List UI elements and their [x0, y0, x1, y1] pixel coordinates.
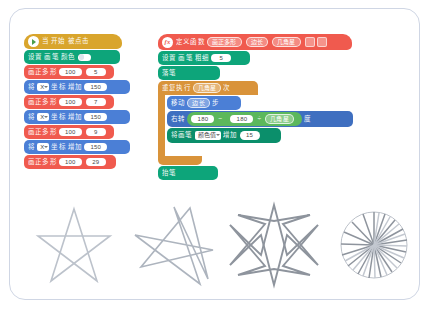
define-label: 定义函数: [176, 39, 205, 46]
define-function-header[interactable]: fx 定义函数 画正多形 边长 几角星: [158, 34, 352, 50]
call-label-3: 画正多形: [28, 129, 57, 136]
call-arg-3-2[interactable]: 9: [86, 128, 106, 137]
star-7-icon: [124, 197, 224, 293]
change-x-block-2[interactable]: 将 X 坐标 增加 150: [24, 110, 130, 124]
divide-operator-symbol: ÷: [255, 116, 263, 123]
axis-dropdown-2[interactable]: X: [37, 113, 49, 122]
subtraction-operator-block[interactable]: 180 − 180 ÷ 几角星: [187, 112, 301, 127]
call-label-2: 画正多形: [28, 99, 57, 106]
star-9-icon: [224, 197, 324, 293]
change-x-prefix-1: 将: [28, 84, 35, 91]
call-arg-1-2[interactable]: 5: [86, 68, 106, 77]
move-label-before: 移动: [171, 100, 185, 107]
drawn-star-results: [24, 197, 424, 293]
repeat-label-before: 重复执行: [162, 85, 191, 92]
change-x-block-3[interactable]: 将 X 坐标 增加 150: [24, 140, 130, 154]
star-29-icon: [324, 197, 424, 293]
turn-operand-a[interactable]: 180: [191, 115, 214, 124]
function-name-chip[interactable]: 画正多形: [207, 37, 242, 48]
repeat-block-header[interactable]: 重复执行 几角星 次: [158, 81, 258, 95]
call-draw-polygon-block-4[interactable]: 画正多形 100 29: [24, 155, 116, 169]
pen-down-block[interactable]: 落笔: [158, 66, 220, 80]
set-pen-color-block[interactable]: 设置 画笔 颜色: [24, 50, 120, 64]
pen-color-toggle[interactable]: [78, 54, 91, 61]
change-pen-color-block[interactable]: 将画笔 颜色值 增加 15: [167, 128, 281, 143]
pen-down-label: 落笔: [162, 70, 176, 77]
change-x-block-1[interactable]: 将 X 坐标 增加 150: [24, 80, 130, 94]
change-x-prefix-2: 将: [28, 114, 35, 121]
repeat-block-footer: [158, 156, 202, 165]
repeat-block-arm: [158, 95, 165, 156]
change-pen-value[interactable]: 15: [240, 131, 260, 140]
star-result-5-points: [24, 197, 124, 293]
axis-dropdown-1[interactable]: X: [37, 83, 49, 92]
pen-up-label: 抬笔: [162, 170, 176, 177]
workspace-panel: 当 开始 被点击 设置 画笔 颜色 画正多形 100 5 将 X 坐标 增加 1…: [9, 8, 420, 300]
pen-size-value[interactable]: 5: [211, 54, 231, 63]
call-draw-polygon-block-3[interactable]: 画正多形 100 9: [24, 125, 114, 139]
turn-operand-b[interactable]: 180: [230, 115, 253, 124]
pen-up-block[interactable]: 抬笔: [158, 166, 218, 180]
call-draw-polygon-block-1[interactable]: 画正多形 100 5: [24, 65, 114, 79]
change-pen-label-before: 将画笔: [171, 132, 193, 139]
division-operator-block[interactable]: 180 ÷ 几角星: [226, 113, 297, 126]
move-steps-block[interactable]: 移动 边长 步: [167, 96, 241, 110]
change-x-middle-2: 坐标 增加: [51, 114, 82, 121]
call-draw-polygon-block-2[interactable]: 画正多形 100 7: [24, 95, 114, 109]
turn-operand-c-param[interactable]: 几角星: [265, 114, 294, 125]
call-arg-1-1[interactable]: 100: [59, 68, 82, 77]
set-pen-size-block[interactable]: 设置 画笔 粗细 5: [158, 51, 250, 65]
call-arg-2-1[interactable]: 100: [59, 98, 82, 107]
star-result-29-points: [324, 197, 424, 293]
turn-label-after: 度: [304, 116, 311, 123]
minus-operator-symbol: −: [216, 116, 224, 123]
green-flag-icon: [28, 36, 39, 47]
call-arg-3-1[interactable]: 100: [59, 128, 82, 137]
call-label-1: 画正多形: [28, 69, 57, 76]
call-label-4: 画正多形: [28, 159, 57, 166]
turn-right-block[interactable]: 右转 180 − 180 ÷ 几角星 度: [167, 111, 353, 127]
when-flag-clicked-block[interactable]: 当 开始 被点击: [24, 34, 122, 49]
when-flag-clicked-label: 当 开始 被点击: [42, 38, 89, 45]
call-arg-4-2[interactable]: 29: [86, 158, 106, 167]
repeat-label-after: 次: [223, 85, 230, 92]
turn-label-before: 右转: [171, 116, 185, 123]
set-pen-color-label: 设置 画笔 颜色: [28, 54, 75, 61]
pen-property-dropdown[interactable]: 颜色值: [195, 131, 222, 140]
change-x-value-1[interactable]: 150: [84, 83, 107, 92]
call-arg-4-1[interactable]: 100: [59, 158, 82, 167]
change-x-value-2[interactable]: 150: [84, 113, 107, 122]
move-distance-param[interactable]: 边长: [187, 98, 209, 109]
change-x-middle-1: 坐标 增加: [51, 84, 82, 91]
change-pen-label-mid: 增加: [223, 132, 237, 139]
axis-dropdown-3[interactable]: X: [37, 143, 49, 152]
star-5-icon: [24, 197, 124, 293]
minus-button[interactable]: [305, 37, 315, 47]
function-badge-icon: fx: [162, 37, 173, 48]
call-arg-2-2[interactable]: 7: [86, 98, 106, 107]
move-label-after: 步: [212, 100, 219, 107]
change-x-value-3[interactable]: 150: [84, 143, 107, 152]
param-chip-side-length[interactable]: 边长: [246, 37, 268, 48]
star-result-7-points: [124, 197, 224, 293]
change-x-prefix-3: 将: [28, 144, 35, 151]
plus-button[interactable]: [317, 37, 327, 47]
change-x-middle-3: 坐标 增加: [51, 144, 82, 151]
set-pen-size-label: 设置 画笔 粗细: [162, 55, 209, 62]
repeat-times-param[interactable]: 几角星: [193, 83, 222, 94]
star-result-9-points: [224, 197, 324, 293]
editor-canvas: 当 开始 被点击 设置 画笔 颜色 画正多形 100 5 将 X 坐标 增加 1…: [0, 0, 429, 309]
param-chip-point-count[interactable]: 几角星: [272, 37, 301, 48]
